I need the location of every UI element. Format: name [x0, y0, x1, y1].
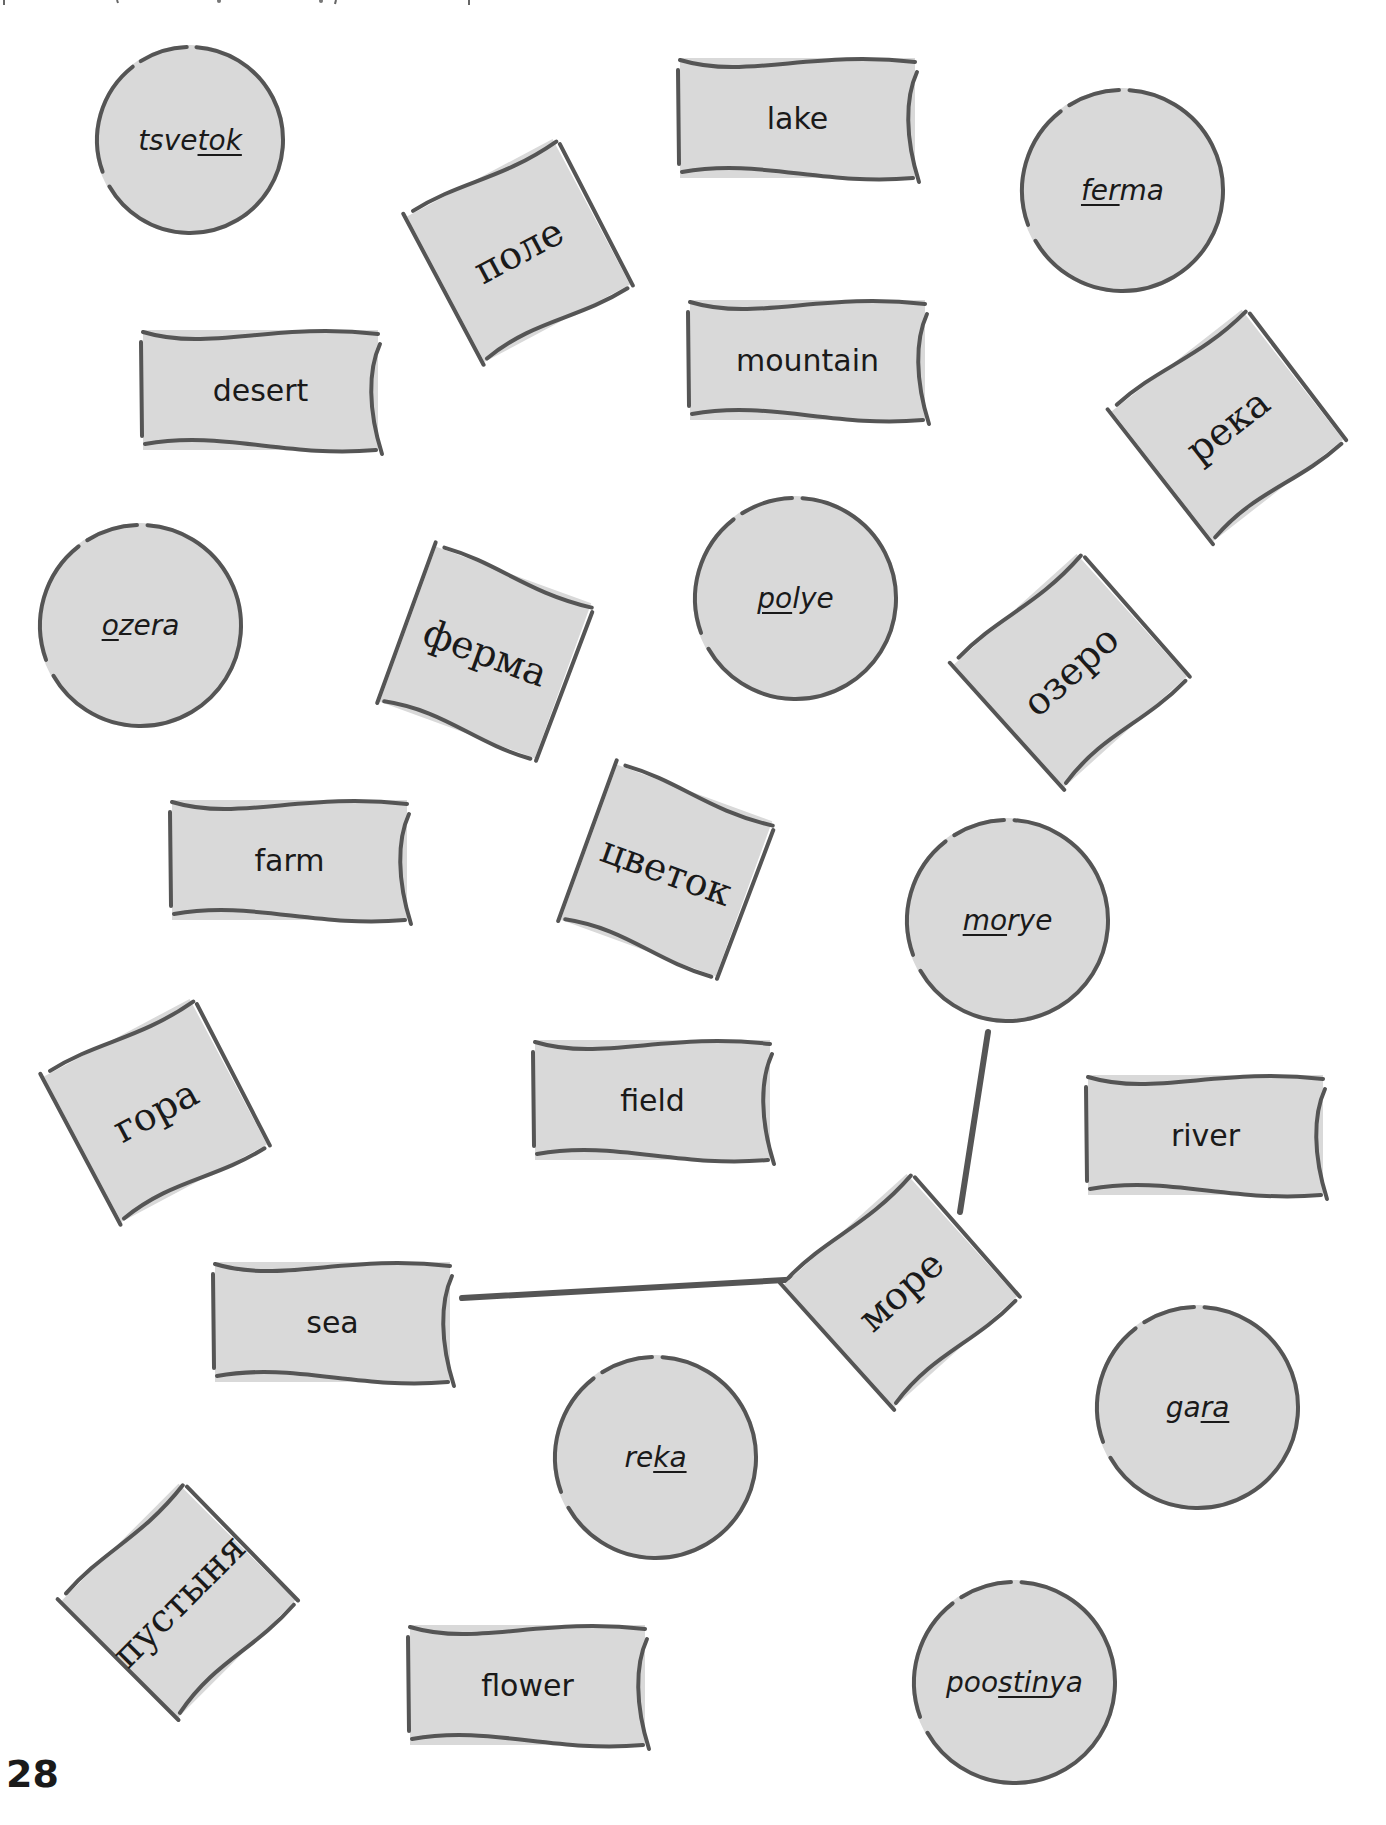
square-pustynya[interactable]: пустыня [61, 1483, 294, 1716]
square-tsvetok-ru[interactable]: цветок [560, 764, 771, 975]
english-word: mountain [736, 343, 879, 378]
square-reka-ru[interactable]: река [1111, 309, 1343, 541]
stressed-syllable: ka [653, 1441, 686, 1474]
square-pole[interactable]: поле [406, 138, 629, 361]
circle-morye[interactable]: morye [905, 818, 1110, 1023]
stressed-syllable: ra [1201, 1391, 1230, 1424]
stressed-syllable: fer [1081, 174, 1120, 207]
english-word: flower [481, 1668, 574, 1703]
square-ferma-ru[interactable]: ферма [379, 546, 590, 757]
circle-poostinya[interactable]: poostinya [912, 1580, 1117, 1785]
english-word: farm [255, 843, 325, 878]
circle-gara[interactable]: gara [1095, 1305, 1300, 1510]
flag-lake[interactable]: lake [680, 58, 915, 178]
stressed-syllable: o [102, 609, 119, 642]
connector-morye-more [960, 1032, 988, 1212]
transliteration-text: ferma [1081, 174, 1164, 207]
transliteration-text: polye [757, 582, 833, 615]
connector-sea-more [462, 1279, 803, 1298]
circle-polye[interactable]: polye [693, 496, 898, 701]
flag-field[interactable]: field [535, 1040, 770, 1160]
flag-desert[interactable]: desert [143, 330, 378, 450]
stressed-syllable: mo [963, 904, 1007, 937]
transliteration-text: reka [624, 1441, 686, 1474]
transliteration-text: morye [963, 904, 1053, 937]
flag-river[interactable]: river [1088, 1075, 1323, 1195]
stressed-syllable: po [757, 582, 792, 615]
flag-flower[interactable]: flower [410, 1625, 645, 1745]
transliteration-text: ozera [102, 609, 180, 642]
english-word: field [620, 1083, 685, 1118]
circle-tsvetok[interactable]: tsvetok [95, 45, 285, 235]
transliteration-text: tsvetok [138, 124, 242, 157]
square-gora[interactable]: гора [43, 998, 266, 1221]
transliteration-text: gara [1166, 1391, 1230, 1424]
stressed-syllable: stin [998, 1666, 1049, 1699]
circle-ozera[interactable]: ozera [38, 523, 243, 728]
english-word: river [1171, 1118, 1240, 1153]
transliteration-text: poostinya [946, 1666, 1083, 1699]
page-number: 28 [6, 1752, 59, 1796]
english-word: lake [767, 101, 828, 136]
cropped-header-remnant [0, 0, 1386, 14]
stressed-syllable: tok [198, 124, 242, 157]
english-word: desert [213, 373, 309, 408]
flag-farm[interactable]: farm [172, 800, 407, 920]
flag-mountain[interactable]: mountain [690, 300, 925, 420]
circle-reka[interactable]: reka [553, 1355, 758, 1560]
square-ozero[interactable]: озеро [953, 553, 1186, 786]
circle-ferma[interactable]: ferma [1020, 88, 1225, 293]
square-more[interactable]: море [783, 1173, 1016, 1406]
english-word: sea [306, 1305, 358, 1340]
flag-sea[interactable]: sea [215, 1262, 450, 1382]
